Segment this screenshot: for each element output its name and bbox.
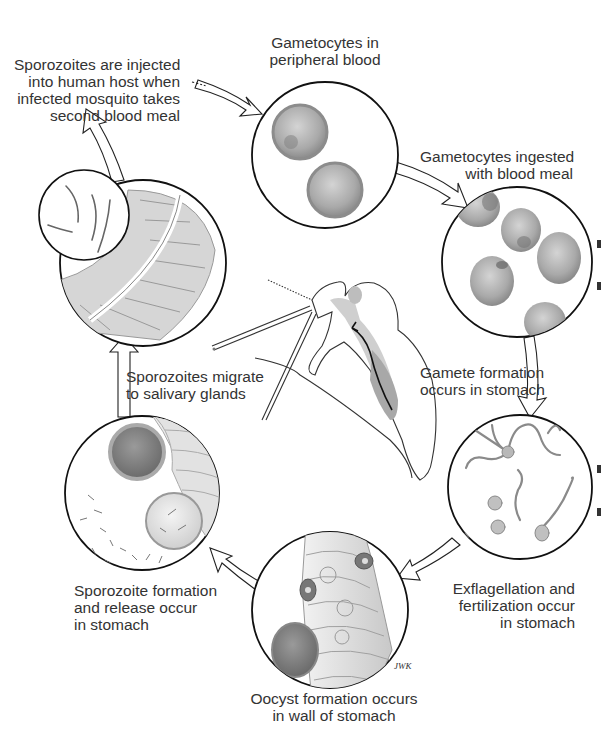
label-gametocytes-peripheral-blood: Gametocytes in peripheral blood <box>262 34 388 68</box>
gametocyte-cell <box>308 163 362 217</box>
stage-circle-exflagellation <box>448 415 592 559</box>
mosquito-antenna <box>268 280 312 300</box>
artist-signature: JWK <box>394 661 412 671</box>
zygote <box>535 525 549 541</box>
label-sporozoites-injected: Sporozoites are injected into human host… <box>14 56 180 124</box>
stage-circle-peripheral-blood <box>252 82 398 228</box>
gametocyte-cell <box>537 232 581 284</box>
label-sporozoites-migrate: Sporozoites migrate to salivary glands <box>126 368 276 402</box>
stage-circle-sporozoite-release <box>65 412 230 570</box>
mosquito-leg <box>262 312 316 420</box>
arrow-gametes-to-oocyst <box>397 538 460 580</box>
label-exflagellation-fertilization: Exflagellation and fertilization occur i… <box>440 580 575 631</box>
stage-circle-oocyst: JWK <box>252 525 412 700</box>
label-oocyst-formation: Oocyst formation occurs in wall of stoma… <box>244 690 424 724</box>
zygote <box>491 520 505 534</box>
stage-circle-salivary-gland <box>39 170 226 346</box>
mature-oocyst <box>110 425 164 479</box>
macrogamete-center <box>502 446 514 458</box>
ruptured-oocyst <box>146 493 202 549</box>
stage-circle-ingested <box>442 187 592 342</box>
label-sporozoite-formation: Sporozoite formation and release occur i… <box>74 582 224 633</box>
label-gametocytes-ingested: Gametocytes ingested with blood meal <box>420 148 573 182</box>
edge-marks <box>597 240 601 516</box>
zygote <box>488 496 502 510</box>
label-gamete-formation: Gamete formation occurs in stomach <box>420 364 560 398</box>
mature-oocyst <box>272 623 318 677</box>
sporozoite-inset <box>39 170 129 260</box>
gametocyte-cell <box>273 105 327 159</box>
salivary-gland <box>348 286 362 304</box>
